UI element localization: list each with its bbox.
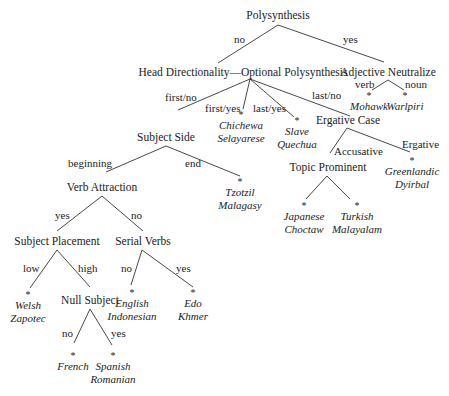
node-subject-side: Subject Side [137, 131, 195, 144]
edge-label-ns-no: no [62, 327, 73, 340]
node-topic-prominent: Topic Prominent [290, 161, 367, 174]
edge-label-sv-no: no [121, 262, 132, 275]
edge-label-poly-yes: yes [343, 33, 358, 46]
edge-label-beginning: beginning [68, 157, 112, 170]
edge-label-sp-low: low [23, 262, 40, 275]
edge-label-poly-no: no [234, 33, 245, 46]
leaf-greenlandic-dyirbal: * Greenlandic Dyirbal [385, 157, 440, 191]
asterisk-icon: * [57, 352, 88, 360]
node-verb-attraction: Verb Attraction [67, 181, 138, 194]
leaf-welsh-zapotec: * Welsh Zapotec [10, 291, 45, 325]
asterisk-icon: * [10, 291, 45, 299]
leaf-edo-khmer: * Edo Khmer [178, 289, 208, 323]
edge-label-sv-yes: yes [176, 262, 191, 275]
asterisk-icon: * [350, 92, 388, 100]
leaf-french: * French [57, 352, 88, 373]
asterisk-icon: * [284, 202, 325, 210]
leaf-slave-quechua: * Slave Quechua [277, 117, 317, 151]
asterisk-icon: * [332, 202, 382, 210]
node-head-directionality: Head Directionality—Optional Polysynthes… [139, 66, 348, 79]
leaf-mohawk: * Mohawk [350, 92, 388, 113]
leaf-turkish-malayalam: * Turkish Malayalam [332, 202, 382, 236]
edge-label-sp-high: high [78, 262, 98, 275]
edge-label-va-yes: yes [55, 209, 70, 222]
node-polysynthesis: Polysynthesis [246, 9, 309, 22]
leaf-japanese-choctaw: * Japanese Choctaw [284, 202, 325, 236]
edge-label-end: end [185, 157, 201, 170]
leaf-english-indonesian: * English Indonesian [108, 289, 157, 323]
edge-label-first-no: first/no [165, 91, 197, 104]
node-ergative-case: Ergative Case [316, 114, 380, 127]
asterisk-icon: * [385, 157, 440, 165]
edge-label-last-no: last/no [312, 89, 341, 102]
node-subject-placement: Subject Placement [14, 235, 99, 248]
edge-label-ns-yes: yes [111, 327, 126, 340]
asterisk-icon: * [108, 289, 157, 297]
parameter-tree-diagram: Polysynthesis Head Directionality—Option… [0, 0, 449, 396]
asterisk-icon: * [277, 117, 317, 125]
leaf-spanish-romanian: * Spanish Romanian [90, 352, 135, 386]
asterisk-icon: * [90, 352, 135, 360]
edge-label-accusative: Accusative [334, 145, 383, 158]
leaf-warlpiri: * Warlpiri [387, 92, 424, 113]
leaf-tzotzil-malagasy: * Tzotzil Malagasy [218, 178, 261, 212]
asterisk-icon: * [217, 111, 264, 119]
leaf-chichewa-selayarese: * Chichewa Selayarese [217, 111, 264, 145]
edge-label-va-no: no [131, 209, 142, 222]
edge-label-adj-noun: noun [405, 78, 427, 91]
edge-label-adj-verb: verb [355, 78, 375, 91]
node-serial-verbs: Serial Verbs [115, 235, 171, 248]
asterisk-icon: * [387, 92, 424, 100]
edge-label-ergative: Ergative [402, 138, 439, 151]
asterisk-icon: * [178, 289, 208, 297]
asterisk-icon: * [218, 178, 261, 186]
